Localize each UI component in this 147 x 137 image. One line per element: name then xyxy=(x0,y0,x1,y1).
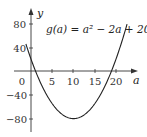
equation-label: g(a) = a² − 2a + 20 xyxy=(46,23,147,35)
y-tick-label: −40 xyxy=(6,90,27,101)
x-tick-label: 10 xyxy=(67,76,80,87)
function-plot: 0 5 10 15 20 80 40 −40 −80 y a g(a) = a²… xyxy=(0,0,147,137)
x-axis-arrow-icon xyxy=(131,69,138,74)
x-tick-label: 15 xyxy=(89,76,102,87)
x-axis-label: a xyxy=(133,74,140,87)
y-tick-label: 40 xyxy=(13,43,26,54)
y-tick-label: −80 xyxy=(6,114,27,125)
x-tick-label: 5 xyxy=(49,76,55,87)
y-tick-label: 80 xyxy=(13,19,26,30)
y-axis-arrow-icon xyxy=(29,8,34,15)
x-tick-label: 0 xyxy=(19,76,25,87)
x-tick-label: 20 xyxy=(110,76,123,87)
y-axis-label: y xyxy=(36,7,44,20)
